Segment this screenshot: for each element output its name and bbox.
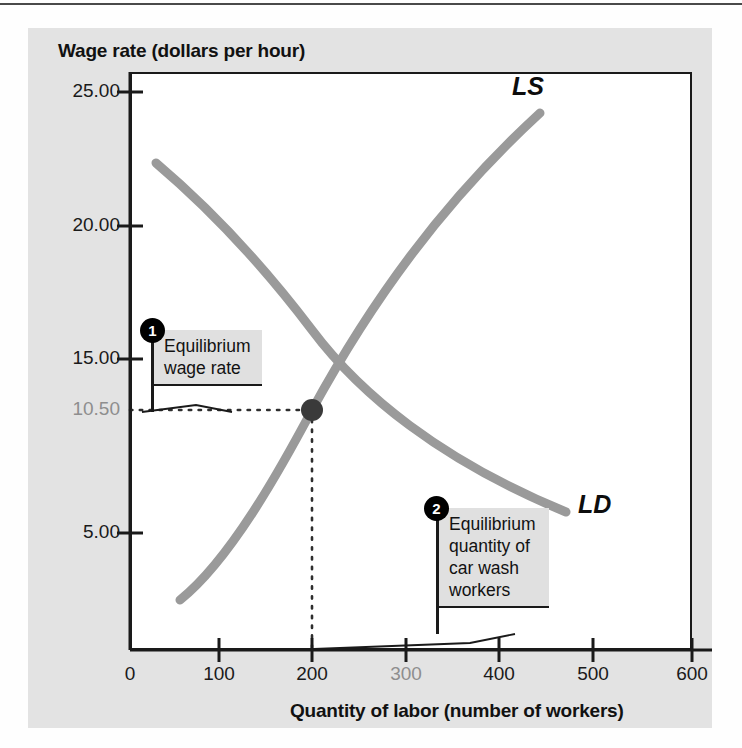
labor-demand-curve-label: LD bbox=[578, 490, 611, 519]
y-tick-label-5: 5.00 bbox=[34, 521, 120, 543]
callout-equilibrium-quantity: Equilibrium quantity of car wash workers bbox=[437, 508, 549, 608]
x-tick-label-600: 600 bbox=[657, 663, 727, 685]
callout-2-leader-line bbox=[314, 634, 515, 649]
x-axis-title: Quantity of labor (number of workers) bbox=[290, 700, 624, 722]
x-tick-label-0: 0 bbox=[95, 663, 165, 685]
y-tick-label-15: 15.00 bbox=[34, 347, 120, 369]
callout-equilibrium-wage-rate: Equilibrium wage rate bbox=[152, 330, 262, 386]
x-tick-label-300: 300 bbox=[371, 663, 441, 685]
x-tick-label-400: 400 bbox=[464, 663, 534, 685]
figure-page: Wage rate (dollars per hour) Quantity of… bbox=[0, 0, 742, 748]
x-tick-label-200: 200 bbox=[277, 663, 347, 685]
x-tick-label-100: 100 bbox=[184, 663, 254, 685]
chart-canvas bbox=[0, 0, 742, 748]
y-axis-title: Wage rate (dollars per hour) bbox=[58, 40, 305, 62]
equilibrium-point-marker bbox=[301, 399, 323, 421]
y-tick-label-20: 20.00 bbox=[34, 214, 120, 236]
x-tick-label-500: 500 bbox=[558, 663, 628, 685]
y-tick-label-10-50: 10.50 bbox=[34, 398, 120, 420]
labor-supply-curve-label: LS bbox=[512, 72, 544, 101]
callout-1-number-badge: 1 bbox=[140, 318, 165, 343]
callout-2-number-badge: 2 bbox=[424, 496, 449, 521]
y-tick-label-25: 25.00 bbox=[34, 80, 120, 102]
